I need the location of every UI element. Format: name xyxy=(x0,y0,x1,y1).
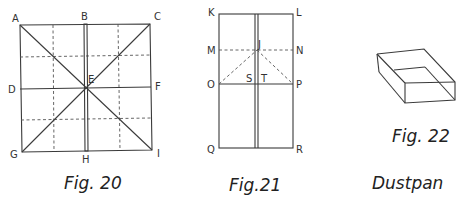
label-A: A xyxy=(12,13,19,24)
label-N: N xyxy=(296,45,303,56)
label-Q: Q xyxy=(207,144,215,155)
dustpan-inner-back-edge xyxy=(394,67,425,70)
label-G: G xyxy=(10,149,18,160)
dustpan-left-back-edge xyxy=(377,54,379,72)
dustpan-inner-right-edge xyxy=(425,67,455,100)
fig20-dashed-horizontal-top xyxy=(20,55,151,57)
label-S: S xyxy=(246,73,252,84)
label-I: I xyxy=(157,148,160,159)
fig21-rectangle-diagram: K L M N J O S T P Q R Fig.21 xyxy=(207,7,303,195)
label-D: D xyxy=(8,84,16,95)
fig20-caption: Fig. 20 xyxy=(64,173,122,193)
label-F: F xyxy=(155,81,161,92)
fig20-square-diagram: A B C D E F G H I Fig. 20 xyxy=(8,11,161,193)
label-J: J xyxy=(257,39,261,50)
label-O: O xyxy=(207,79,215,90)
label-B: B xyxy=(81,11,88,22)
fig22-dustpan-drawing: Fig. 22 Dustpan xyxy=(372,49,455,193)
label-H: H xyxy=(82,154,90,165)
fig20-dashed-horizontal-bottom xyxy=(21,118,151,120)
fig21-caption: Fig.21 xyxy=(229,175,281,195)
label-K: K xyxy=(208,7,215,18)
fig22-title: Dustpan xyxy=(372,173,443,193)
label-L: L xyxy=(296,7,302,18)
fig22-caption: Fig. 22 xyxy=(392,126,450,146)
dustpan-left-bottom-edge xyxy=(379,72,405,103)
label-M: M xyxy=(207,45,216,56)
label-P: P xyxy=(296,79,302,90)
label-C: C xyxy=(154,11,161,22)
label-T: T xyxy=(260,73,268,84)
label-R: R xyxy=(296,144,303,155)
dustpan-top-outline xyxy=(377,49,455,103)
diagram-canvas: A B C D E F G H I Fig. 20 K L M N J O S … xyxy=(0,0,462,202)
fig21-outer-rect xyxy=(219,14,293,148)
dustpan-front-top-edge xyxy=(405,82,455,83)
label-E: E xyxy=(88,74,94,85)
